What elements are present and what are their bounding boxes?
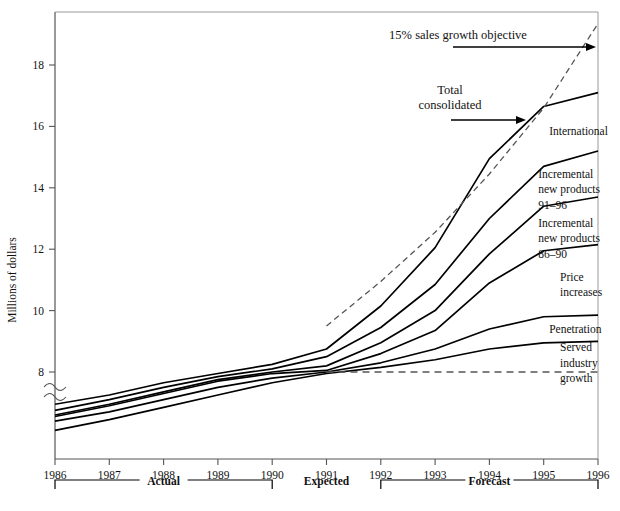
y-tick-label: 18 bbox=[33, 59, 45, 71]
y-axis-title: Millions of dollars bbox=[6, 237, 18, 323]
x-tick-label: 1987 bbox=[98, 469, 121, 481]
band-label: Incremental bbox=[538, 217, 593, 229]
y-tick-label: 16 bbox=[33, 120, 45, 132]
band-label: industry bbox=[560, 357, 598, 370]
x-tick-label: 1995 bbox=[532, 469, 555, 481]
chart-background bbox=[0, 0, 620, 511]
period-bracket-label: Actual bbox=[147, 475, 180, 487]
band-label: 86–90 bbox=[538, 248, 567, 260]
x-tick-label: 1989 bbox=[206, 469, 229, 481]
objective-annotation-label: 15% sales growth objective bbox=[389, 28, 527, 42]
period-bracket-label: Expected bbox=[304, 475, 350, 488]
x-tick-label: 1990 bbox=[261, 469, 284, 481]
x-tick-label: 1986 bbox=[44, 469, 67, 481]
period-bracket-label: Forecast bbox=[468, 475, 510, 487]
band-label: International bbox=[549, 125, 608, 137]
band-label: growth bbox=[560, 372, 593, 385]
x-tick-label: 1993 bbox=[424, 469, 447, 481]
band-label: 91–96 bbox=[538, 199, 567, 211]
sales-growth-waterfall-chart: 81012141618 1986198719881989199019911992… bbox=[0, 0, 620, 511]
chart-container: 81012141618 1986198719881989199019911992… bbox=[0, 0, 620, 511]
band-label: new products bbox=[538, 183, 600, 196]
y-tick-label: 14 bbox=[33, 182, 45, 194]
band-label: Served bbox=[560, 341, 592, 353]
y-tick-label: 8 bbox=[38, 366, 44, 378]
band-label: new products bbox=[538, 232, 600, 245]
total-consolidated-label-line1: Total bbox=[437, 83, 463, 97]
band-label: Incremental bbox=[538, 168, 593, 180]
y-tick-label: 10 bbox=[33, 305, 45, 317]
band-label: Price bbox=[560, 271, 584, 283]
total-consolidated-label-line2: consolidated bbox=[418, 98, 482, 112]
x-tick-label: 1992 bbox=[369, 469, 392, 481]
band-label: increases bbox=[560, 286, 603, 298]
x-tick-label: 1996 bbox=[587, 469, 610, 481]
band-label: Penetration bbox=[549, 323, 602, 335]
y-tick-label: 12 bbox=[33, 243, 45, 255]
